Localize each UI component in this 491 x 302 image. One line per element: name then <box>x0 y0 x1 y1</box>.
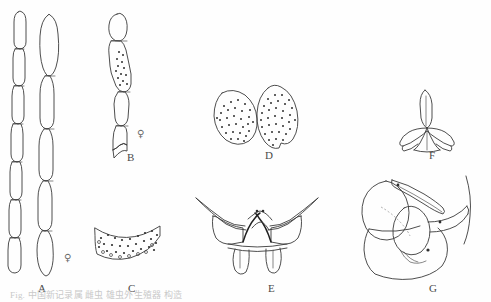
panel-c-drawing <box>95 226 160 259</box>
figure-caption-strip: Fig. 中国新记录属 雌虫 雄虫外生殖器 构造 <box>0 288 491 302</box>
female-symbol-panel-b: ♀ <box>137 128 144 139</box>
panel-label-b: B <box>127 151 135 163</box>
panel-label-d: D <box>265 149 273 161</box>
panel-b-drawing <box>109 13 132 158</box>
figure-drawing-canvas <box>0 0 491 302</box>
panel-d-drawing <box>214 85 298 148</box>
panel-f-drawing <box>400 90 454 152</box>
figure-plate: A B C D E F G ♀ ♀ Fig. 中国新记录属 雌虫 雄虫外生殖器 … <box>0 0 491 302</box>
panel-e-drawing <box>196 198 318 274</box>
figure-caption-text: Fig. 中国新记录属 雌虫 雄虫外生殖器 构造 <box>10 288 182 301</box>
panel-a-drawing <box>8 11 59 276</box>
panel-g-drawing <box>362 176 471 279</box>
female-symbol-panel-a: ♀ <box>64 252 71 263</box>
panel-label-f: F <box>429 149 436 161</box>
